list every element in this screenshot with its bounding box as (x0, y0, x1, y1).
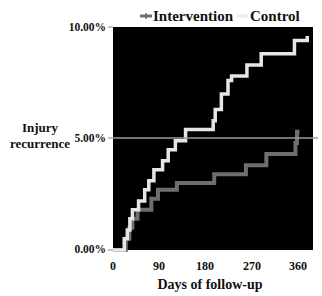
xtick-label: 90 (153, 259, 165, 273)
legend-intervention: Intervention (140, 8, 234, 24)
x-axis-title: Days of follow-up (157, 277, 262, 292)
y-axis-title-line1: Injury (22, 120, 59, 135)
xtick-label: 270 (243, 259, 261, 273)
legend-intervention-label: Intervention (153, 8, 234, 24)
y-axis: 10.00% 5.00% 0.00% Injury recurrence (10, 21, 113, 255)
y-axis-title-line2: recurrence (10, 136, 70, 151)
legend-control: Control (237, 8, 300, 24)
xtick-label: 360 (289, 259, 307, 273)
xtick-label: 0 (110, 259, 116, 273)
kaplan-meier-chart: Intervention Control 10.00% 5.00% 0.00% … (0, 0, 322, 296)
legend-control-label: Control (250, 8, 300, 24)
ytick-label: 0.00% (74, 243, 106, 255)
ytick-label: 5.00% (74, 132, 106, 144)
xtick-label: 180 (196, 259, 214, 273)
ytick-label: 10.00% (69, 21, 106, 33)
x-axis: 0 90 180 270 360 Days of follow-up (110, 259, 307, 292)
legend: Intervention Control (140, 8, 300, 24)
